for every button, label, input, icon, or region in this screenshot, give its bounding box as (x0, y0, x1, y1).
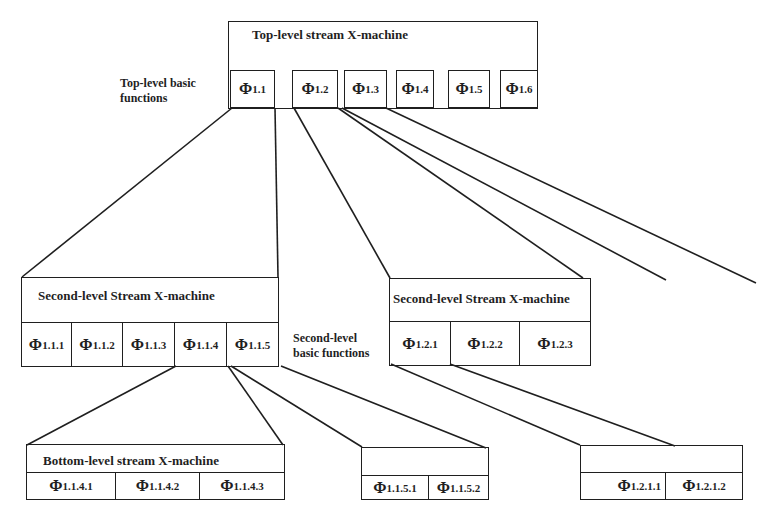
function-cell-1-1-5-2: Φ1.1.5.2 (428, 475, 489, 500)
connector-line (27, 366, 176, 445)
function-cell-1-1-1: Φ1.1.1 (21, 322, 72, 367)
function-cell-1-2-1-2: Φ1.2.1.2 (665, 472, 743, 500)
connector-line (231, 366, 362, 447)
function-cell-1-1-4-3: Φ1.1.4.3 (199, 472, 285, 500)
label-line: functions (120, 91, 196, 106)
connector-line (386, 108, 756, 283)
function-cell-1-1: Φ1.1 (230, 70, 275, 108)
function-cell-1-1-2: Φ1.1.2 (71, 322, 123, 367)
label-line: Top-level basic (120, 76, 196, 91)
connector-line (275, 108, 278, 277)
top-level-functions-label: Top-level basic functions (120, 76, 196, 106)
connector-line (342, 108, 666, 280)
connector-line (228, 366, 283, 445)
function-cell-1-2-1-1: Φ1.2.1.1 (580, 472, 666, 500)
connector-line (450, 364, 675, 446)
bottom-level-machine-left-title: Bottom-level stream X-machine (43, 453, 219, 469)
function-cell-1-5: Φ1.5 (448, 70, 490, 108)
function-cell-1-6: Φ1.6 (500, 70, 538, 108)
function-cell-1-1-4-2: Φ1.1.4.2 (115, 472, 200, 500)
second-level-machine-left-title: Second-level Stream X-machine (38, 288, 215, 304)
function-cell-1-1-4-1: Φ1.1.4.1 (26, 472, 116, 500)
function-cell-1-4: Φ1.4 (396, 70, 434, 108)
function-cell-1-3: Φ1.3 (344, 70, 387, 108)
function-cell-1-2-3: Φ1.2.3 (519, 321, 591, 366)
label-line: Second-level (293, 331, 369, 346)
function-cell-1-1-4: Φ1.1.4 (174, 322, 227, 367)
function-cell-1-1-5-1: Φ1.1.5.1 (361, 475, 429, 500)
label-line: basic functions (293, 346, 369, 361)
connector-line (281, 366, 486, 448)
second-level-machine-right-title: Second-level Stream X-machine (393, 291, 570, 307)
function-cell-1-1-3: Φ1.1.3 (122, 322, 175, 367)
function-cell-1-2: Φ1.2 (292, 70, 338, 108)
connector-line (22, 108, 232, 277)
top-level-machine-title: Top-level stream X-machine (252, 27, 408, 43)
second-level-functions-label: Second-level basic functions (293, 331, 369, 361)
function-cell-1-2-2: Φ1.2.2 (450, 321, 520, 366)
function-cell-1-2-1: Φ1.2.1 (389, 321, 451, 366)
function-cell-1-1-5: Φ1.1.5 (226, 322, 279, 367)
